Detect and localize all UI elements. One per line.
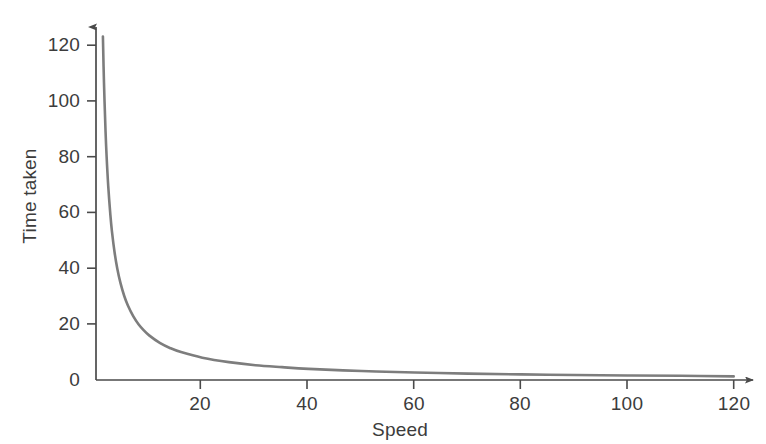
- x-tick-label-80: 80: [509, 393, 531, 415]
- data-series-curve: [103, 37, 734, 377]
- chart-plot-area: [0, 0, 766, 444]
- y-tick-label-0: 0: [20, 369, 80, 391]
- x-tick-label-100: 100: [611, 393, 643, 415]
- x-tick-label-60: 60: [403, 393, 425, 415]
- y-tick-label-40: 40: [20, 257, 80, 279]
- x-axis-title: Speed: [372, 419, 428, 441]
- y-axis-title: Time taken: [19, 148, 41, 243]
- y-tick-label-120: 120: [20, 34, 80, 56]
- y-axis-ticks: [87, 45, 96, 324]
- x-tick-label-40: 40: [296, 393, 318, 415]
- x-tick-label-20: 20: [189, 393, 211, 415]
- y-tick-label-20: 20: [20, 313, 80, 335]
- x-tick-label-120: 120: [718, 393, 750, 415]
- y-tick-label-100: 100: [20, 90, 80, 112]
- chart-container: 120 100 80 60 40 20 0 20 40 60 80 100 12…: [0, 0, 766, 444]
- x-axis-ticks: [200, 380, 733, 389]
